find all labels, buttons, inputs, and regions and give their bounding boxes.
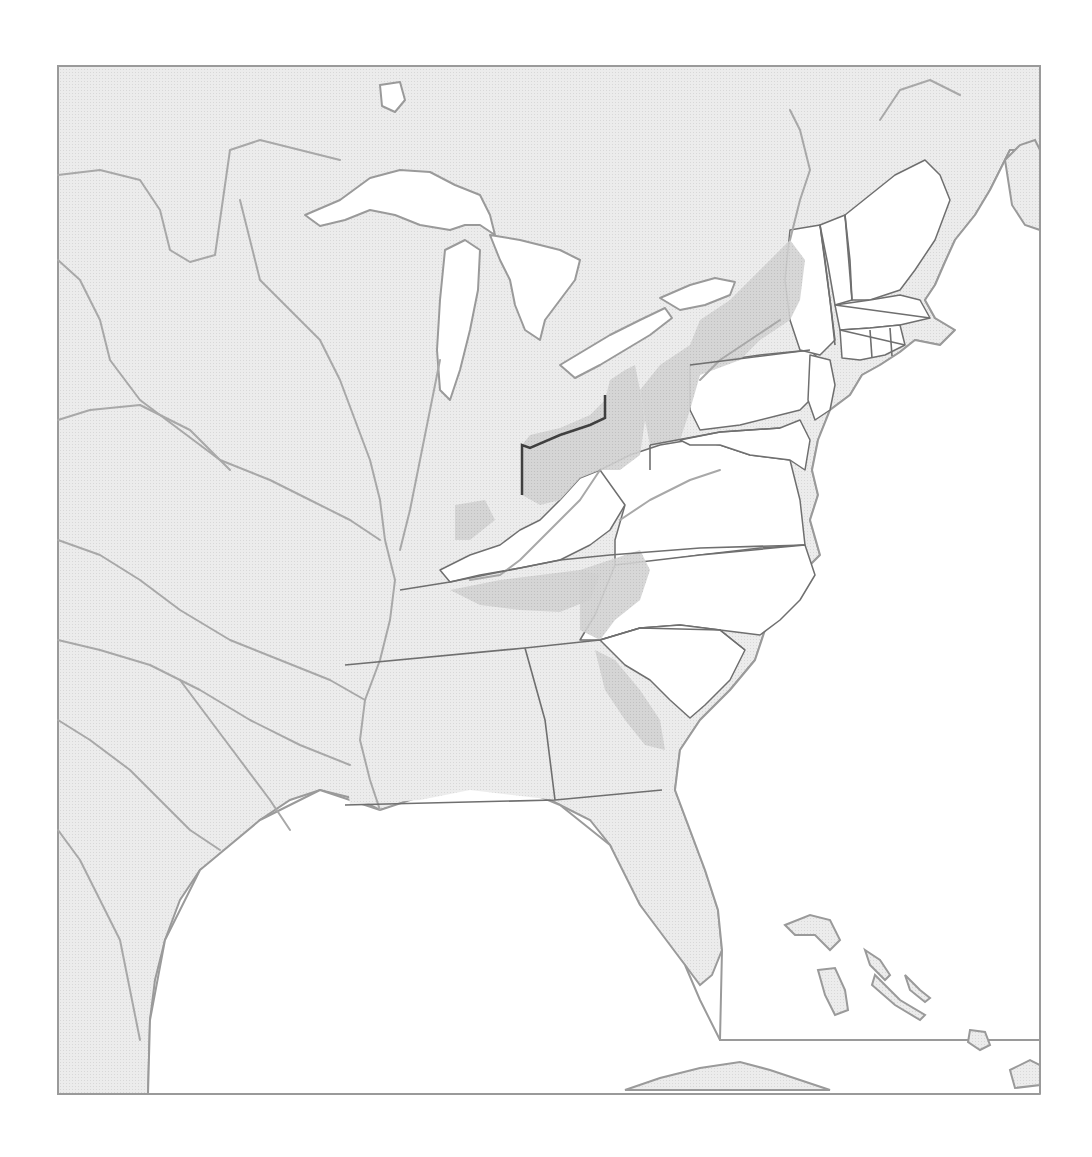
- historical-map: [58, 66, 1040, 1094]
- map-canvas: [0, 0, 1092, 1157]
